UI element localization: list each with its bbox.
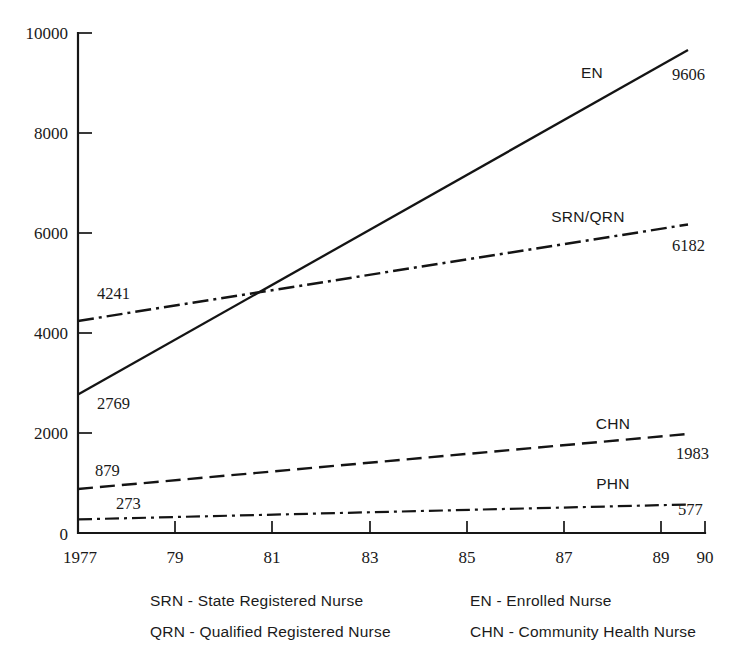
value-label-chn-start: 879 [95,461,120,480]
legend-entry-chn: CHN - Community Health Nurse [470,623,730,641]
chart-canvas: 10000 8000 6000 4000 2000 0 1977 79 81 8… [0,0,751,662]
value-annotations: 4241 2769 879 273 9606 6182 1983 577 [95,65,709,519]
ytick-label-8000: 8000 [34,124,68,143]
ytick-label-2000: 2000 [34,424,68,443]
series-label-srnqrn: SRN/QRN [551,208,625,225]
series-line-srnqrn [78,225,688,321]
ytick-label-4000: 4000 [34,324,68,343]
value-label-phn-end: 577 [678,500,703,519]
value-label-srnqrn-end: 6182 [672,236,705,255]
xtick-label-1979: 79 [167,548,184,567]
series-label-en: EN [581,64,603,81]
ytick-label-6000: 6000 [34,224,68,243]
chart-legend: SRN - State Registered Nurse EN - Enroll… [150,585,730,647]
axis-group [78,33,705,533]
value-label-srnqrn-start: 4241 [97,284,130,303]
xtick-label-1990: 90 [697,548,714,567]
xtick-label-1981: 81 [264,548,281,567]
xtick-label-1983: 83 [362,548,379,567]
xtick-label-1989: 89 [653,548,670,567]
series-annotations: EN SRN/QRN CHN PHN [551,64,630,492]
series-label-chn: CHN [596,415,630,432]
ytick-label-0: 0 [60,525,69,544]
ytick-labels: 10000 8000 6000 4000 2000 0 [26,24,69,544]
xtick-label-1977: 1977 [63,548,98,567]
axis-lines [78,33,705,533]
series-group [78,50,688,519]
series-label-phn: PHN [596,475,630,492]
xtick-label-1987: 87 [556,548,574,567]
value-label-phn-start: 273 [116,494,141,513]
xtick-labels: 1977 79 81 83 85 87 89 90 [63,548,714,567]
nurse-workforce-line-chart: 10000 8000 6000 4000 2000 0 1977 79 81 8… [0,0,751,662]
value-label-en-start: 2769 [97,394,130,413]
legend-entry-en: EN - Enrolled Nurse [470,592,730,610]
legend-entry-srn: SRN - State Registered Nurse [150,592,470,610]
value-label-chn-end: 1983 [676,444,709,463]
ytick-label-10000: 10000 [26,24,69,43]
xtick-label-1985: 85 [459,548,476,567]
series-line-phn [78,505,688,520]
legend-entry-qrn: QRN - Qualified Registered Nurse [150,623,470,641]
value-label-en-end: 9606 [672,65,705,84]
